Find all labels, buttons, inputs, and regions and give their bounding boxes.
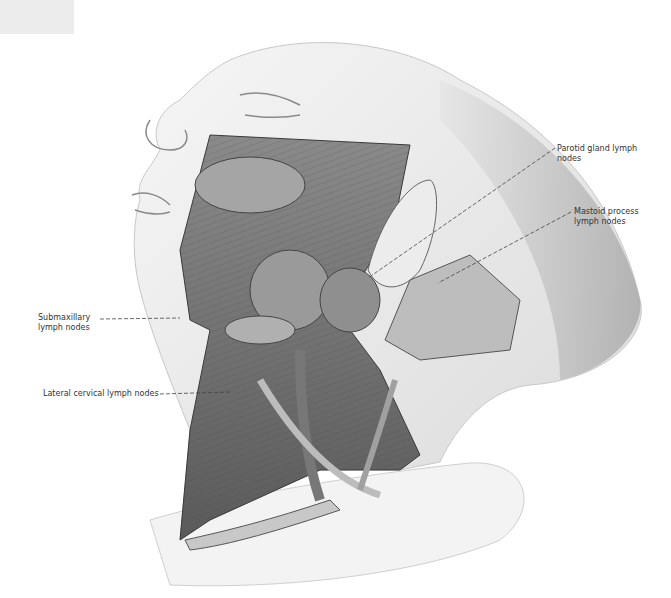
- label-submaxillary-lymph-nodes: Submaxillary lymph nodes: [38, 313, 98, 333]
- label-lateral-cervical-lymph-nodes: Lateral cervical lymph nodes: [43, 389, 183, 399]
- label-mastoid-process-lymph-nodes: Mastoid process lymph nodes: [574, 207, 669, 227]
- anatomical-illustration: [0, 0, 671, 598]
- label-parotid-gland-lymph-nodes: Parotid gland lymph nodes: [557, 144, 667, 164]
